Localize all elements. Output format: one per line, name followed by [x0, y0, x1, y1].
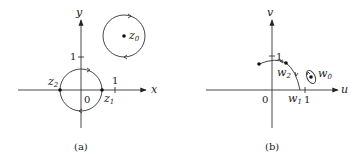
- caption-b: (b): [265, 141, 279, 152]
- label-z1: z1: [103, 92, 114, 106]
- u-axis-label: u: [341, 83, 348, 96]
- caption-a: (a): [74, 141, 88, 152]
- figure: x y 1 1 0 z0 z1 z2 (a) u v 1 1 0 w0 w1 w…: [0, 0, 364, 160]
- label-w0: w0: [318, 67, 332, 81]
- tick-label-v-1: 1: [276, 51, 282, 62]
- label-w1: w1: [288, 92, 302, 106]
- x-axis-label: x: [151, 83, 158, 96]
- label-w2: w2: [277, 66, 291, 80]
- v-axis-label: v: [267, 6, 274, 19]
- point-left: [257, 62, 261, 66]
- y-axis-label: y: [75, 6, 83, 19]
- panel-a: [18, 14, 146, 128]
- origin-label: 0: [262, 94, 268, 105]
- arrow-icon: [307, 72, 310, 75]
- point-z2: [58, 88, 62, 92]
- point-w0: [309, 75, 313, 79]
- tick-label-y-1: 1: [70, 51, 76, 62]
- origin-label: 0: [84, 94, 90, 105]
- point-w2: [284, 61, 288, 65]
- tick-label-x-1: 1: [112, 75, 118, 86]
- label-z0: z0: [128, 29, 140, 43]
- point-z0: [122, 34, 126, 38]
- tick-label-u-1: 1: [304, 94, 310, 105]
- arrow-icon: [295, 72, 298, 76]
- label-z2: z2: [47, 75, 59, 89]
